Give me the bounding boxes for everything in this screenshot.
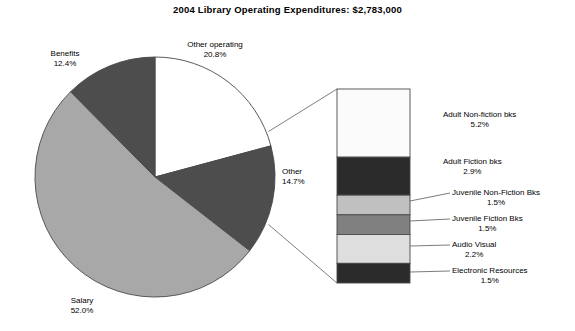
bar-label-juvenile-non-fiction-name: Juvenile Non-Fiction Bks xyxy=(452,188,540,197)
bar-segment-juvenile-fiction[interactable] xyxy=(337,215,410,235)
pie-label-other: Other 14.7% xyxy=(282,167,326,187)
pie-label-other-operating-percent: 20.8% xyxy=(171,50,259,60)
bar-label-adult-fiction-name: Adult Fiction bks xyxy=(443,157,502,166)
bar-label-juvenile-fiction-percent: 1.5% xyxy=(452,224,523,234)
bar-segment-juvenile-non-fiction[interactable] xyxy=(337,195,410,215)
bar-label-electronic-resources-name: Electronic Resources xyxy=(452,266,528,275)
pie-label-salary-percent: 52.0% xyxy=(54,306,110,316)
bar-label-adult-fiction-percent: 2.9% xyxy=(443,167,502,177)
pie-label-salary: Salary 52.0% xyxy=(54,296,110,316)
bar-label-audio-visual-name: Audio Visual xyxy=(452,240,496,249)
leader-juvenile-non-fiction xyxy=(410,193,450,201)
pie-label-other-name: Other xyxy=(282,167,302,176)
bar-label-adult-non-fiction-percent: 5.2% xyxy=(443,120,516,130)
pie-label-other-operating-name: Other operating xyxy=(187,40,243,49)
bar-label-juvenile-fiction-name: Juvenile Fiction Bks xyxy=(452,214,523,223)
bar-label-leaders xyxy=(410,193,450,272)
bar-label-juvenile-non-fiction-percent: 1.5% xyxy=(452,198,540,208)
pie-label-other-operating: Other operating 20.8% xyxy=(171,40,259,60)
chart-canvas: 2004 Library Operating Expenditures: $2,… xyxy=(0,0,575,331)
bar-label-audio-visual-percent: 2.2% xyxy=(452,250,496,260)
leader-electronic-resources xyxy=(410,271,450,272)
bar-label-audio-visual: Audio Visual 2.2% xyxy=(452,240,496,260)
breakout-stacked-bar xyxy=(337,89,410,283)
leader-audio-visual xyxy=(410,245,450,246)
pie-label-benefits-percent: 12.4% xyxy=(36,59,94,69)
bar-label-adult-non-fiction: Adult Non-fiction bks 5.2% xyxy=(443,110,516,130)
pie-label-benefits: Benefits 12.4% xyxy=(36,49,94,69)
bar-segment-adult-fiction[interactable] xyxy=(337,157,410,195)
bar-label-adult-fiction: Adult Fiction bks 2.9% xyxy=(443,157,502,177)
bar-label-electronic-resources-percent: 1.5% xyxy=(452,276,528,286)
bar-label-electronic-resources: Electronic Resources 1.5% xyxy=(452,266,528,286)
pie-label-benefits-name: Benefits xyxy=(51,49,80,58)
bar-label-juvenile-fiction: Juvenile Fiction Bks 1.5% xyxy=(452,214,523,234)
leader-juvenile-fiction xyxy=(410,219,450,221)
pie-label-salary-name: Salary xyxy=(71,296,94,305)
bar-segment-audio-visual[interactable] xyxy=(337,235,410,264)
bar-segment-electronic-resources[interactable] xyxy=(337,263,410,283)
pie-label-other-percent: 14.7% xyxy=(282,177,326,187)
bar-label-adult-non-fiction-name: Adult Non-fiction bks xyxy=(443,110,516,119)
bar-segment-adult-non-fiction[interactable] xyxy=(337,89,410,157)
pie-slices xyxy=(35,57,275,297)
bar-label-juvenile-non-fiction: Juvenile Non-Fiction Bks 1.5% xyxy=(452,188,540,208)
